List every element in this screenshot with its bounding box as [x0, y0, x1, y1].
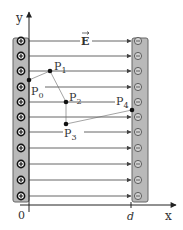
minus-charge-icon	[134, 67, 141, 74]
point-p2	[64, 100, 69, 105]
field-label-text: E	[81, 35, 89, 48]
d-label: d	[127, 210, 134, 223]
label-p3: P3	[64, 127, 77, 142]
electric-field-label: E	[81, 32, 89, 49]
field-lines	[29, 41, 131, 196]
plus-charge-icon	[17, 192, 24, 199]
plus-charge-icon	[17, 67, 24, 74]
label-p0: P0	[31, 85, 44, 100]
origin-label: 0	[18, 209, 25, 222]
plus-charge-icon	[17, 144, 24, 151]
minus-charge-icon	[134, 160, 141, 167]
minus-charge-icon	[134, 37, 141, 44]
minus-charge-icon	[134, 176, 141, 183]
minus-charge-icon	[134, 83, 141, 90]
minus-charge-icon	[134, 52, 141, 59]
point-p4	[130, 108, 135, 113]
point-p3	[64, 122, 69, 127]
minus-charge-icon	[134, 144, 141, 151]
minus-charge-icon	[134, 192, 141, 199]
plus-charge-icon	[17, 83, 24, 90]
plus-charge-icon	[17, 113, 24, 120]
x-axis-label: x	[165, 209, 172, 223]
y-axis-label: y	[15, 11, 23, 25]
point-p1	[48, 69, 53, 74]
plus-charge-icon	[17, 52, 24, 59]
plus-charge-icon	[17, 176, 24, 183]
plus-charge-icon	[17, 37, 24, 44]
minus-charge-icon	[134, 128, 141, 135]
point-p0	[27, 78, 32, 83]
plus-charge-icon	[17, 128, 24, 135]
minus-charge-icon	[134, 113, 141, 120]
plus-charge-icon	[17, 98, 24, 105]
label-p1: P1	[54, 60, 67, 75]
plus-charge-icon	[17, 160, 24, 167]
label-p4: P4	[116, 95, 129, 110]
label-p2: P2	[69, 91, 82, 106]
parallel-plate-diagram: y x 0 d E P0 P1 P2 P3 P4	[0, 0, 183, 230]
minus-charge-icon	[134, 98, 141, 105]
